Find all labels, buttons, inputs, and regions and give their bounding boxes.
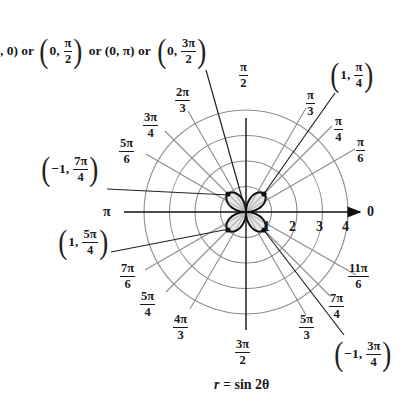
numerator: 3π bbox=[366, 340, 381, 355]
annotation-r: 0, bbox=[49, 43, 59, 59]
point-r: −1, bbox=[344, 346, 362, 362]
point-r: −1, bbox=[51, 161, 69, 177]
fraction: 3π 2 bbox=[181, 37, 196, 65]
angle-label-pi-4: π4 bbox=[334, 115, 343, 143]
angle-label-3pi-4: 3π4 bbox=[143, 111, 158, 139]
numerator: 4π bbox=[173, 313, 188, 328]
fraction: 3π4 bbox=[366, 340, 381, 368]
denominator: 2 bbox=[65, 52, 71, 66]
denominator: 4 bbox=[147, 126, 153, 140]
radial-tick-4: 4 bbox=[342, 219, 349, 235]
numerator: 5π bbox=[82, 228, 97, 243]
numerator: 3π bbox=[143, 111, 158, 126]
point-label-neg1-3pi-4: ( −1, 3π4 ) bbox=[333, 337, 393, 371]
angle-label-pi: π bbox=[103, 205, 111, 219]
radial-tick-1: 1 bbox=[263, 219, 270, 235]
equation-caption: r = sin 2θ bbox=[214, 377, 269, 393]
denominator: 3 bbox=[179, 101, 185, 115]
annotation-prefix: , 0) or bbox=[0, 43, 34, 59]
numerator: π bbox=[354, 61, 363, 76]
denominator: 4 bbox=[333, 307, 339, 321]
numerator: π bbox=[239, 61, 248, 76]
denominator: 4 bbox=[144, 305, 150, 319]
angle-label-pi-3: π3 bbox=[306, 89, 315, 117]
denominator: 4 bbox=[335, 130, 341, 144]
angle-label-11pi-6: 11π6 bbox=[348, 262, 369, 290]
numerator: π bbox=[306, 89, 315, 104]
fraction: π 2 bbox=[64, 37, 73, 65]
numerator: 2π bbox=[175, 86, 190, 101]
denominator: 6 bbox=[124, 277, 130, 291]
caption-lhs: r bbox=[214, 377, 219, 392]
angle-label-pi-6: π6 bbox=[356, 136, 365, 164]
numerator: π bbox=[64, 37, 73, 52]
denominator: 2 bbox=[240, 76, 246, 90]
angle-label-2pi-3: 2π3 bbox=[175, 86, 190, 114]
numerator: 3π bbox=[181, 37, 196, 52]
numerator: 5π bbox=[299, 313, 314, 328]
caption-rhs: sin 2θ bbox=[234, 377, 269, 392]
denominator: 4 bbox=[87, 243, 93, 257]
angle-label-7pi-6: 7π6 bbox=[120, 262, 135, 290]
numerator: 11π bbox=[348, 262, 369, 277]
numerator: 7π bbox=[120, 262, 135, 277]
annotation-mid: or (0, π) or bbox=[89, 43, 151, 59]
denominator: 4 bbox=[78, 170, 84, 184]
point-r: 1, bbox=[68, 234, 78, 250]
radial-tick-3: 3 bbox=[316, 219, 323, 235]
angle-label-5pi-3: 5π3 bbox=[299, 313, 314, 341]
angle-label-7pi-4: 7π4 bbox=[329, 292, 344, 320]
denominator: 4 bbox=[356, 76, 362, 90]
angle-label-4pi-3: 4π3 bbox=[173, 313, 188, 341]
numerator: π bbox=[334, 115, 343, 130]
point-label-neg1-7pi-4: ( −1, 7π4 ) bbox=[40, 152, 100, 186]
angle-label-3pi-2: 3π2 bbox=[235, 338, 250, 366]
denominator: 3 bbox=[307, 104, 313, 118]
angle-label-pi-2: π2 bbox=[239, 61, 248, 89]
denominator: 3 bbox=[177, 328, 183, 342]
numerator: 7π bbox=[73, 155, 88, 170]
point-label-1-5pi-4: ( 1, 5π4 ) bbox=[57, 225, 109, 259]
numerator: 7π bbox=[329, 292, 344, 307]
denominator: 4 bbox=[371, 355, 377, 369]
fraction: π4 bbox=[354, 61, 363, 89]
denominator: 3 bbox=[303, 328, 309, 342]
angle-label-0: 0 bbox=[367, 205, 374, 219]
denominator: 2 bbox=[186, 52, 192, 66]
fraction: 7π4 bbox=[73, 155, 88, 183]
angle-label-5pi-6: 5π6 bbox=[119, 137, 134, 165]
polar-graph-figure: , 0) or ( 0, π 2 ) or (0, π) or ( 0, 3π … bbox=[0, 0, 410, 405]
annotation-r: 0, bbox=[167, 43, 177, 59]
zeros-annotation: , 0) or ( 0, π 2 ) or (0, π) or ( 0, 3π … bbox=[0, 34, 208, 68]
numerator: π bbox=[356, 136, 365, 151]
denominator: 6 bbox=[357, 151, 363, 165]
denominator: 6 bbox=[355, 277, 361, 291]
denominator: 6 bbox=[123, 152, 129, 166]
numerator: 3π bbox=[235, 338, 250, 353]
point-label-1-pi-4: ( 1, π4 ) bbox=[329, 58, 375, 92]
radial-tick-2: 2 bbox=[289, 219, 296, 235]
numerator: 5π bbox=[119, 137, 134, 152]
caption-equals: = bbox=[223, 377, 231, 392]
numerator: 5π bbox=[140, 290, 155, 305]
angle-label-5pi-4: 5π4 bbox=[140, 290, 155, 318]
point-r: 1, bbox=[340, 67, 350, 83]
denominator: 2 bbox=[239, 353, 245, 367]
fraction: 5π4 bbox=[82, 228, 97, 256]
